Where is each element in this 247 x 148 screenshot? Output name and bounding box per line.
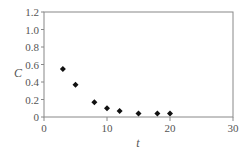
y-tick-label: 0.6: [25, 59, 39, 71]
y-tick-label: 0.4: [25, 76, 39, 88]
y-tick-label: 1.2: [25, 6, 39, 18]
diamond-marker-icon: [73, 82, 79, 88]
y-tick-label: 0.8: [25, 41, 39, 53]
x-axis-ticks: 0102030: [41, 117, 239, 134]
y-axis-ticks: 00.20.40.60.81.01.2: [25, 6, 44, 123]
data-points: [60, 66, 173, 117]
y-tick-label: 0.2: [25, 94, 39, 106]
x-axis-title: t: [136, 136, 140, 148]
diamond-marker-icon: [117, 108, 123, 114]
diamond-marker-icon: [60, 66, 66, 72]
x-tick-label: 30: [228, 122, 240, 134]
y-tick-label: 0: [34, 111, 40, 123]
y-tick-label: 1.0: [25, 24, 39, 36]
scatter-chart: 00.20.40.60.81.01.2 0102030 C t: [0, 0, 247, 148]
diamond-marker-icon: [167, 111, 173, 117]
x-tick-label: 20: [165, 122, 177, 134]
x-tick-label: 0: [41, 122, 47, 134]
x-tick-label: 10: [102, 122, 114, 134]
diamond-marker-icon: [136, 111, 142, 117]
diamond-marker-icon: [91, 99, 97, 105]
plot-frame: [44, 12, 233, 117]
diamond-marker-icon: [104, 105, 110, 111]
y-axis-title: C: [14, 66, 23, 80]
diamond-marker-icon: [154, 111, 160, 117]
